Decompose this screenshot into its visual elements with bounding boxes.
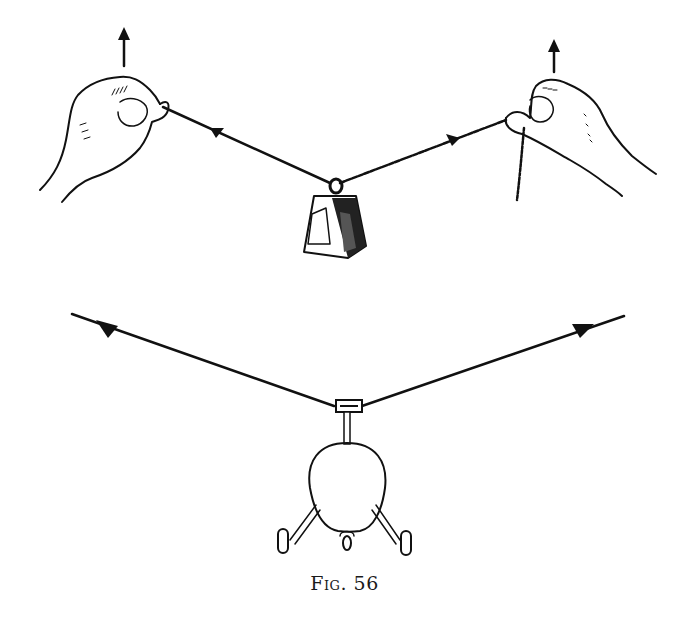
right-string — [340, 120, 506, 183]
figure-caption: Fig. 56 — [0, 572, 689, 594]
right-hand-icon — [506, 80, 656, 200]
helicopter-icon — [278, 400, 411, 555]
caption-number: 56 — [354, 572, 379, 594]
top-scene — [40, 27, 656, 258]
right-up-arrow-icon — [548, 39, 560, 72]
left-string — [163, 107, 330, 183]
left-cable — [72, 314, 334, 406]
figure-illustration — [0, 0, 689, 626]
right-cable — [362, 316, 624, 406]
bell-weight-icon — [304, 179, 366, 258]
left-up-arrow-icon — [118, 27, 130, 66]
caption-prefix: Fig. — [310, 572, 347, 594]
bottom-scene — [72, 314, 624, 555]
left-hand-icon — [40, 77, 169, 202]
